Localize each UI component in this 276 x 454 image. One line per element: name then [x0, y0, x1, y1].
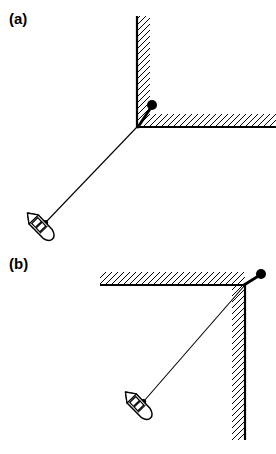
panel-a-vessel-icon: [23, 209, 57, 244]
panel-a-tether-line: [46, 127, 137, 222]
panel-b-tether-line: [144, 285, 245, 401]
panel-a-label: (a): [9, 11, 27, 26]
panel-b-marker-dot: [256, 269, 266, 279]
panel-b-horizontal-wall: [100, 272, 246, 285]
panel-a-marker-dot: [147, 100, 157, 110]
wall-hatching: [100, 272, 245, 285]
panel-b-vertical-wall: [232, 284, 245, 440]
panel-a-horizontal-wall: [136, 114, 276, 127]
panel-b-vessel-icon: [121, 388, 155, 423]
diagram-canvas: [0, 0, 276, 454]
wall-hatching: [137, 114, 276, 127]
wall-hatching: [232, 285, 245, 440]
figure-container: (a) (b): [0, 0, 276, 454]
panel-b: [100, 269, 266, 440]
panel-a: [23, 16, 276, 243]
panel-b-label: (b): [9, 256, 28, 271]
